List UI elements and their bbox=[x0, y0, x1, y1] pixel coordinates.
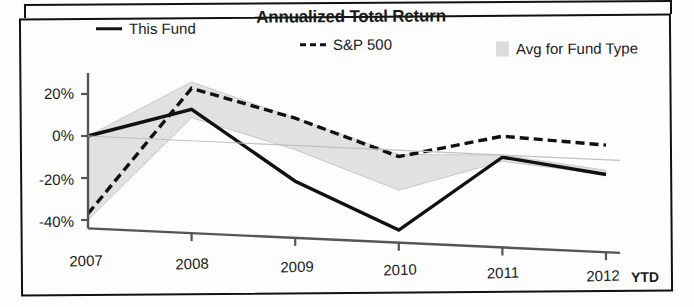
avg-fund-type-band bbox=[88, 82, 606, 220]
plot-area: Annualized Total Return This Fund S&P 50… bbox=[0, 0, 694, 307]
chart-figure: Annualized Total Return This Fund S&P 50… bbox=[0, 0, 694, 307]
chart-svg bbox=[0, 0, 694, 307]
x-axis-line bbox=[88, 228, 620, 252]
